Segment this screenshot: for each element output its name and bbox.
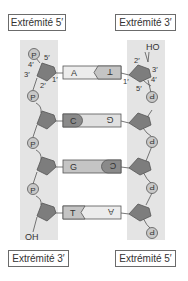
phosphate-icon: P bbox=[28, 138, 39, 149]
svg-text:2′: 2′ bbox=[134, 56, 140, 65]
svg-text:P: P bbox=[30, 93, 35, 102]
phosphate-icon: P bbox=[147, 228, 158, 239]
hydroxyl-3prime-bottom: OH bbox=[25, 232, 39, 242]
svg-text:1′: 1′ bbox=[123, 77, 129, 86]
svg-text:4′: 4′ bbox=[151, 75, 157, 84]
hydroxyl-3prime-top: HO bbox=[146, 42, 160, 52]
base-g: G bbox=[106, 115, 113, 125]
dna-diagram: P P P P P P P P bbox=[0, 0, 188, 281]
svg-text:4′: 4′ bbox=[28, 60, 34, 69]
base-c: C bbox=[109, 161, 116, 171]
svg-text:P: P bbox=[149, 183, 154, 192]
phosphate-icon: P bbox=[147, 183, 158, 194]
svg-text:P: P bbox=[31, 51, 36, 60]
base-pair-a-t: A T bbox=[63, 66, 121, 79]
svg-text:P: P bbox=[149, 137, 154, 146]
svg-text:P: P bbox=[149, 228, 154, 237]
svg-text:3′: 3′ bbox=[24, 70, 30, 79]
base-c: C bbox=[70, 116, 77, 126]
svg-text:1′: 1′ bbox=[52, 75, 58, 84]
base-pair-c-g: C G bbox=[63, 114, 121, 127]
svg-text:P: P bbox=[149, 92, 154, 101]
glycosidic-bonds bbox=[56, 73, 129, 214]
svg-text:3′: 3′ bbox=[152, 65, 158, 74]
phosphate-icon: P bbox=[28, 91, 39, 102]
base-a: A bbox=[71, 68, 77, 78]
phosphate-icon: P bbox=[28, 184, 39, 195]
base-t: T bbox=[107, 67, 113, 77]
base-t: T bbox=[70, 208, 76, 218]
base-pair-g-c: G C bbox=[63, 160, 121, 173]
svg-text:P: P bbox=[30, 186, 35, 195]
phosphate-icon: P bbox=[29, 49, 40, 60]
svg-text:P: P bbox=[30, 140, 35, 149]
svg-text:5′: 5′ bbox=[136, 84, 142, 93]
svg-text:5′: 5′ bbox=[44, 53, 50, 62]
base-g: G bbox=[70, 162, 77, 172]
phosphate-icon: P bbox=[147, 92, 158, 103]
base-a: A bbox=[108, 207, 114, 217]
phosphate-icon: P bbox=[147, 137, 158, 148]
svg-text:2′: 2′ bbox=[40, 81, 46, 90]
base-pair-t-a: T A bbox=[63, 206, 121, 219]
